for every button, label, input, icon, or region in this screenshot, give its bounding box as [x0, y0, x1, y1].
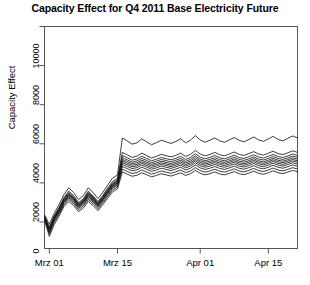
data-line	[45, 159, 298, 230]
data-line	[45, 165, 298, 233]
chart-figure: Capacity Effect for Q4 2011 Base Electri…	[0, 0, 310, 285]
plot-frame	[45, 27, 298, 249]
data-lines-group	[45, 136, 298, 237]
data-line	[45, 136, 298, 225]
plot-area	[0, 0, 310, 285]
